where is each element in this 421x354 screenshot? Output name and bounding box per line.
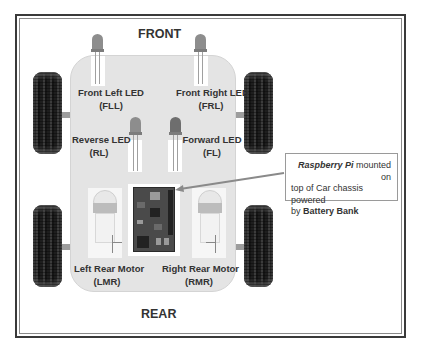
callout-line3-prefix: by (291, 206, 303, 216)
callout-battery-bank: Battery Bank (303, 206, 359, 216)
callout-emphasis: Raspberry Pi (298, 160, 354, 170)
raspberry-pi-callout: Raspberry Pi mounted on top of Car chass… (285, 153, 398, 201)
callout-line1-rest: mounted on (353, 160, 391, 182)
callout-line2: top of Car chassis powered (291, 183, 393, 206)
